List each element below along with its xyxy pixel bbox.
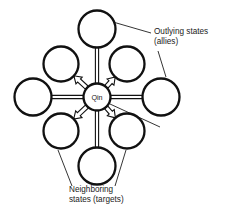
leader-line-outlying-to-north bbox=[113, 22, 151, 33]
outlying-states-label-line1: Outlying states bbox=[154, 27, 208, 36]
node-northeast[interactable] bbox=[110, 47, 145, 82]
leader-line-neighboring-to-se bbox=[115, 150, 126, 186]
center-node[interactable]: Qin bbox=[84, 84, 111, 111]
leader-line-neighboring-to-sw bbox=[58, 150, 72, 186]
node-west[interactable] bbox=[15, 79, 52, 116]
node-circle-east bbox=[143, 79, 180, 116]
node-south[interactable] bbox=[79, 148, 116, 185]
node-circle-west bbox=[15, 79, 52, 116]
leader-line-outlying-to-east bbox=[158, 51, 166, 77]
outlying-states-label-line2: (allies) bbox=[154, 37, 178, 46]
neighboring-states-label-line2: states (targets) bbox=[69, 195, 124, 204]
neighboring-states-label-line1: Neighboring bbox=[69, 185, 114, 194]
node-north[interactable] bbox=[79, 11, 116, 48]
diagram-canvas: Qin Outlying states (allies) Neighboring… bbox=[0, 0, 225, 220]
node-northwest[interactable] bbox=[44, 47, 79, 82]
center-node-label: Qin bbox=[91, 93, 102, 102]
node-circle-northeast bbox=[110, 47, 145, 82]
node-circle-south bbox=[79, 148, 116, 185]
node-circle-southeast bbox=[110, 114, 145, 149]
node-southwest[interactable] bbox=[44, 114, 79, 149]
arrow-southwest bbox=[74, 105, 89, 119]
node-circle-southwest bbox=[44, 114, 79, 149]
arrow-northwest bbox=[74, 76, 88, 89]
node-circle-north bbox=[79, 11, 116, 48]
node-southeast[interactable] bbox=[110, 114, 145, 149]
node-circle-northwest bbox=[44, 47, 79, 82]
qin-radial-diagram: Qin Outlying states (allies) Neighboring… bbox=[0, 0, 225, 220]
node-east[interactable] bbox=[143, 79, 180, 116]
